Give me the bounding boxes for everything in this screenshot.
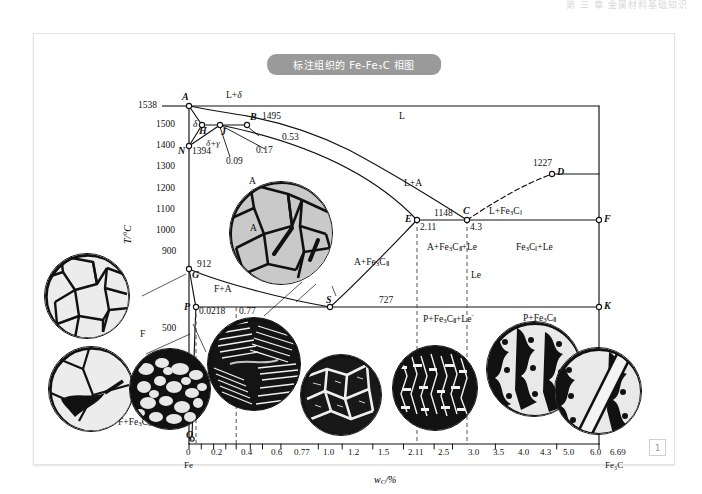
book-page-header: 第 三 章 金属材料基础知识: [566, 0, 688, 11]
x-axis-title-w: w: [374, 474, 381, 485]
x-tick-0.77: 0.77: [294, 448, 310, 457]
comp-0.53: 0.53: [282, 133, 299, 143]
x-tick-1.0: 1.0: [323, 448, 334, 457]
x-axis-left-endlabel: Fe: [184, 461, 193, 470]
point-E: E: [405, 214, 412, 224]
x-axis-title-pct: /%: [385, 474, 396, 485]
point-F: F: [604, 214, 611, 224]
micrograph-ferrite: [44, 253, 130, 339]
x-tick-3.5: 3.5: [493, 448, 504, 457]
region-L-Fe3C1: L+Fe3CⅠ: [489, 207, 522, 217]
point-Q: Q: [186, 430, 193, 440]
x-tick-0.6: 0.6: [271, 448, 282, 457]
y-tick-1400: 1400: [156, 141, 175, 151]
x-tick-2.5: 2.5: [438, 448, 449, 457]
y-tick-1200: 1200: [156, 184, 175, 194]
y-tick-1100: 1100: [156, 205, 175, 215]
x-tick-4.3: 4.3: [540, 448, 551, 457]
region-F: F: [140, 330, 145, 340]
point-S: S: [326, 295, 332, 305]
x-tick-6.0: 6.0: [590, 448, 601, 457]
y-tick-1300: 1300: [156, 162, 175, 172]
x-tick-0.2: 0.2: [211, 448, 222, 457]
x-tick-0.4: 0.4: [241, 448, 252, 457]
temp-1495: 1495: [262, 112, 281, 122]
x-tick-0: 0: [186, 448, 191, 457]
point-H: H: [199, 126, 207, 136]
x-axis-right-endlabel: Fe₃C: [605, 461, 623, 470]
micrograph-austenite-caption: A: [250, 224, 257, 234]
temp-1227: 1227: [533, 159, 552, 169]
region-L-delta: L+δ: [226, 91, 242, 101]
region-Le: Le: [471, 271, 481, 281]
point-C: C: [463, 206, 470, 216]
region-A-Fe3C2: A+Fe3CⅡ: [354, 258, 389, 268]
region-L: L: [399, 112, 405, 122]
x-tick-6.69: 6.69: [610, 448, 626, 457]
x-tick-5.0: 5.0: [563, 448, 574, 457]
micrograph-p-fe3c2: [300, 354, 382, 436]
x-axis-title: wC/%: [374, 474, 396, 486]
comp-0.17: 0.17: [256, 146, 273, 156]
x-tick-1.5: 1.5: [378, 448, 389, 457]
y-tick-900: 900: [162, 247, 176, 257]
y-axis-title: T/°C: [122, 225, 133, 244]
micrograph-austenite: [229, 181, 333, 285]
micrograph-pearlite: [207, 317, 301, 411]
region-P-Fe3C2-Le2: P+Fe3CⅡ+Le′: [423, 314, 473, 325]
point-P: P: [184, 302, 190, 312]
x-tick-2.11: 2.11: [408, 448, 423, 457]
comp-4.3: 4.3: [470, 223, 482, 233]
region-delta-gamma: δ+γ: [206, 139, 220, 148]
temp-1148: 1148: [434, 209, 453, 219]
y-tick-1538: 1538: [138, 101, 157, 111]
temp-727: 727: [379, 296, 393, 306]
temp-1394: 1394: [192, 147, 211, 157]
slide-canvas: 标注组织的 Fe-Fe₃C 相图: [33, 33, 675, 465]
point-G: G: [192, 270, 199, 280]
comp-2.11: 2.11: [420, 223, 436, 233]
region-Fe3C1-Le: Fe3CⅠ+Le: [516, 243, 553, 253]
region-L-A: L+A: [404, 179, 422, 189]
micrograph-white-cast-iron: [554, 347, 642, 435]
point-B: B: [250, 112, 257, 122]
y-tick-1500: 1500: [156, 120, 175, 130]
temp-912: 912: [197, 260, 211, 270]
region-F-A: F+A: [214, 285, 232, 295]
micrograph-ledeburite-1: [392, 345, 478, 431]
y-tick-1000: 1000: [156, 226, 175, 236]
point-A: A: [182, 92, 189, 102]
region-A-Fe3C2-Le: A+Fe3CⅡ+Le: [427, 243, 477, 253]
region-delta: δ: [193, 120, 197, 130]
micrograph-ferrite-fe3c3: [48, 346, 134, 432]
page-number-badge: 1: [649, 439, 666, 456]
point-K: K: [604, 301, 611, 311]
point-N: N: [178, 146, 185, 156]
x-tick-1.2: 1.2: [348, 448, 359, 457]
y-tick-500: 500: [162, 324, 176, 334]
screenshot-root: 第 三 章 金属材料基础知识 标注组织的 Fe-Fe₃C 相图: [0, 0, 702, 494]
point-J: J: [221, 127, 226, 137]
x-tick-4.0: 4.0: [518, 448, 529, 457]
comp-0.77: 0.77: [239, 307, 256, 317]
comp-0.0218: 0.0218: [199, 307, 225, 317]
fe-fe3c-phase-diagram: T/°C 1538 1500 1400 1300 1200 1100 1000 …: [34, 34, 674, 464]
x-tick-3.0: 3.0: [468, 448, 479, 457]
point-D: D: [557, 167, 564, 177]
comp-0.09: 0.09: [226, 157, 243, 167]
micrograph-ferrite-pearlite: [129, 348, 211, 430]
